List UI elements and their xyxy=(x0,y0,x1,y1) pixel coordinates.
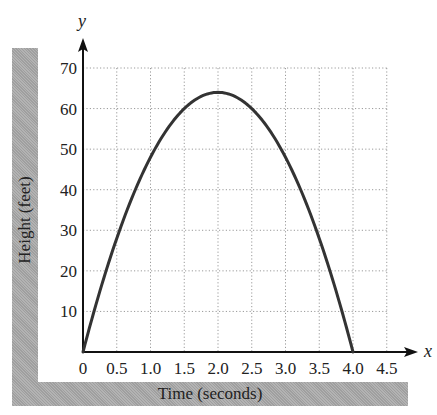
axes xyxy=(78,38,418,357)
x-tick-label: 4.0 xyxy=(342,359,363,378)
y-tick-label: 70 xyxy=(60,59,77,78)
x-tick-label: 3.5 xyxy=(309,359,330,378)
y-tick-label: 30 xyxy=(60,221,77,240)
x-tick-label: 2.5 xyxy=(241,359,262,378)
x-tick-label: 0.5 xyxy=(106,359,127,378)
x-tick-label: 1.0 xyxy=(140,359,161,378)
y-axis-symbol: y xyxy=(76,11,86,31)
x-tick-label: 0 xyxy=(79,359,88,378)
chart-svg: 00.51.01.52.02.53.03.54.04.5102030405060… xyxy=(0,0,437,415)
y-tick-label: 40 xyxy=(60,181,77,200)
x-tick-label: 3.0 xyxy=(275,359,296,378)
x-tick-label: 1.5 xyxy=(174,359,195,378)
x-tick-label: 2.0 xyxy=(207,359,228,378)
y-tick-label: 60 xyxy=(60,100,77,119)
y-tick-label: 20 xyxy=(60,262,77,281)
y-tick-label: 10 xyxy=(60,302,77,321)
x-tick-label: 4.5 xyxy=(376,359,397,378)
x-axis-symbol: x xyxy=(423,341,432,361)
y-tick-label: 50 xyxy=(60,140,77,159)
